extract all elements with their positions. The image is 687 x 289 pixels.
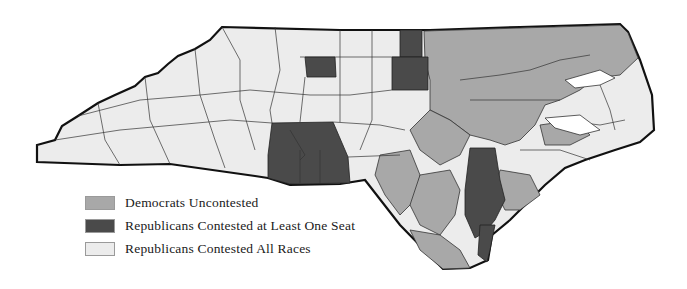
legend-label: Republicans Contested at Least One Seat xyxy=(125,218,355,234)
legend-swatch-republicans-contested-all xyxy=(85,242,115,256)
map-legend: Democrats Uncontested Republicans Contes… xyxy=(85,191,355,260)
legend-label: Democrats Uncontested xyxy=(125,195,259,211)
legend-item-republicans-contested-some: Republicans Contested at Least One Seat xyxy=(85,214,355,237)
legend-swatch-democrats-uncontested xyxy=(85,196,115,210)
legend-swatch-republicans-contested-some xyxy=(85,219,115,233)
legend-label: Republicans Contested All Races xyxy=(125,241,311,257)
legend-item-democrats-uncontested: Democrats Uncontested xyxy=(85,191,355,214)
legend-item-republicans-contested-all: Republicans Contested All Races xyxy=(85,237,355,260)
